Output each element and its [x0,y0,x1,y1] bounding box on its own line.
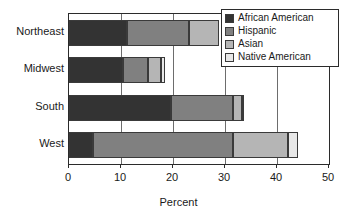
legend-label: Asian [238,39,263,49]
y-axis-label-midwest: Midwest [2,63,64,74]
bar-segment [93,132,233,158]
legend-item: Asian [225,38,335,50]
bar-segment [161,57,165,83]
legend-label: Native American [238,52,311,62]
bar-row [69,20,219,46]
x-axis-tick-label-50: 50 [308,172,347,183]
legend-label: Hispanic [238,26,276,36]
x-axis-tick-40 [276,164,277,168]
stacked-bar-chart: NortheastMidwestSouthWest 01020304050 Pe… [0,0,347,219]
bar-row [69,95,244,121]
bar-segment [189,20,219,46]
bar-segment [69,20,127,46]
legend-item: Hispanic [225,25,335,37]
bar-row [69,132,298,158]
x-axis-tick-10 [120,164,121,168]
x-axis-tick-20 [172,164,173,168]
bar-segment [171,95,233,121]
legend-label: African American [238,13,314,23]
x-axis-tick-label-20: 20 [152,172,192,183]
bar-segment [148,57,161,83]
x-axis-title: Percent [0,196,347,208]
bar-row [69,57,165,83]
x-axis-tick-50 [328,164,329,168]
legend-swatch-native-american [225,53,234,62]
x-axis-tick-label-10: 10 [100,172,140,183]
y-axis-category-labels: NortheastMidwestSouthWest [0,13,64,163]
x-axis-tick-0 [68,164,69,168]
x-axis-tick-label-30: 30 [204,172,244,183]
legend-item: Native American [225,51,335,63]
bar-segment [233,95,242,121]
y-axis-label-south: South [2,101,64,112]
bar-segment [123,57,148,83]
bar-segment [69,95,171,121]
bar-segment [288,132,297,158]
bar-segment [242,95,245,121]
legend-item: African American [225,12,335,24]
bar-segment [127,20,188,46]
legend-swatch-hispanic [225,27,234,36]
x-axis-tick-label-0: 0 [48,172,88,183]
legend-swatch-asian [225,40,234,49]
bar-segment [69,132,93,158]
y-axis-label-west: West [2,138,64,149]
bar-segment [233,132,288,158]
bar-segment [69,57,123,83]
x-axis-tick-30 [224,164,225,168]
y-axis-label-northeast: Northeast [2,26,64,37]
legend-swatch-african-american [225,14,234,23]
x-axis-tick-label-40: 40 [256,172,296,183]
legend: African AmericanHispanicAsianNative Amer… [221,9,339,67]
x-axis-title-text: Percent [160,196,198,208]
